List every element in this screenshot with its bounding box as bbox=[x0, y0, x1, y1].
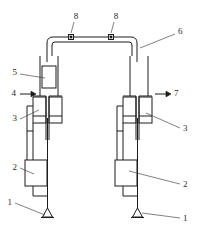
callout-8-right: 8 bbox=[114, 11, 119, 21]
callout-2-left: 2 bbox=[13, 162, 18, 172]
leader-port-right bbox=[111, 22, 114, 33]
callout-2-right: 2 bbox=[183, 179, 188, 189]
leader-base-left bbox=[15, 203, 45, 215]
leader-base-right bbox=[142, 213, 180, 218]
right-assembly bbox=[115, 56, 152, 218]
figure-canvas: 8 8 6 5 4 7 3 3 2 2 1 1 bbox=[0, 0, 200, 235]
callout-3-left: 3 bbox=[13, 113, 18, 123]
callout-8-left: 8 bbox=[74, 11, 79, 21]
left-assembly bbox=[25, 56, 62, 218]
port-valve-left bbox=[69, 35, 74, 40]
callout-7-outlet: 7 bbox=[174, 88, 179, 98]
callout-1-left: 1 bbox=[8, 197, 13, 207]
manifold-pipe bbox=[47, 37, 137, 62]
callout-3-right: 3 bbox=[183, 123, 188, 133]
outlet-flow-arrow bbox=[155, 91, 171, 97]
callout-5-piston: 5 bbox=[13, 67, 18, 77]
leader-port-left bbox=[71, 22, 74, 33]
leader-piston bbox=[20, 74, 45, 78]
callout-1-right: 1 bbox=[183, 213, 188, 223]
callout-6-manifold: 6 bbox=[178, 26, 183, 36]
technical-diagram: 8 8 6 5 4 7 3 3 2 2 1 1 bbox=[0, 0, 200, 235]
port-valve-right bbox=[109, 35, 114, 40]
leader-manifold bbox=[140, 34, 175, 48]
callout-4-inlet: 4 bbox=[12, 88, 17, 98]
